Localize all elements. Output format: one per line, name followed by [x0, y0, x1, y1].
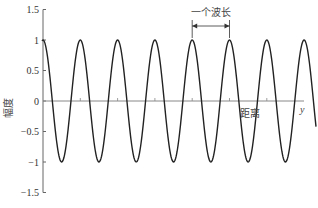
- x-axis-label: 距离: [240, 107, 260, 119]
- y-tick-label: −1.5: [21, 187, 39, 198]
- y-axis: 1.510.50−0.5−1−1.5: [21, 4, 46, 198]
- wavelength-annotation: 一个波长: [191, 6, 231, 38]
- y-tick-label: −1: [28, 157, 39, 168]
- y-tick-label: 0: [34, 96, 39, 107]
- y-axis-label: 幅度: [2, 98, 14, 118]
- x-axis: [43, 98, 304, 101]
- y-tick-label: −0.5: [21, 126, 39, 137]
- amplitude-distance-chart: 1.510.50−0.5−1−1.5 一个波长 幅度 距离 y: [0, 0, 318, 208]
- wavelength-label: 一个波长: [191, 6, 231, 18]
- y-tick-label: 0.5: [27, 65, 40, 76]
- y-tick-label: 1.5: [27, 4, 40, 15]
- y-tick-label: 1: [34, 35, 39, 46]
- x-axis-end-label: y: [299, 104, 305, 115]
